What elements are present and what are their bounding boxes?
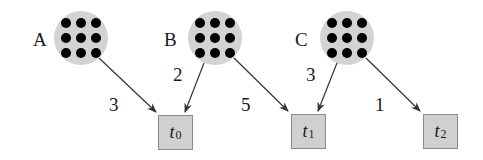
node-label-B: B: [164, 30, 177, 49]
target-box-t1: t1: [291, 114, 326, 149]
target-t2-sub: 2: [441, 127, 447, 142]
node-label-A: A: [33, 30, 47, 49]
target-box-t0: t0: [158, 115, 193, 150]
target-t1-sub: 1: [309, 127, 315, 142]
edge-weight-C-t2: 1: [375, 95, 385, 114]
node-label-C: C: [295, 30, 308, 49]
target-t0-base: t: [169, 122, 174, 143]
target-t2-base: t: [434, 121, 439, 142]
target-t0-sub: 0: [176, 128, 182, 143]
edge-weight-B-t1: 5: [241, 95, 251, 114]
edge-A-t0: [99, 58, 156, 112]
edge-weight-A-t0: 3: [109, 95, 119, 114]
edge-weight-B-t0: 2: [173, 65, 183, 84]
edge-weight-C-t1: 3: [306, 65, 316, 84]
diagram-canvas: [0, 0, 483, 160]
target-t1-base: t: [302, 121, 307, 142]
target-box-t2: t2: [423, 114, 458, 149]
edge-B-t0: [185, 63, 204, 112]
edge-C-t1: [318, 63, 337, 111]
